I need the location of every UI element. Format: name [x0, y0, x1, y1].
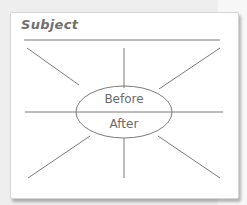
spoke-bottom-left — [28, 136, 90, 178]
spoke-bottom-right — [158, 136, 220, 178]
before-label: Before — [94, 92, 154, 106]
spoke-top-right — [159, 48, 220, 89]
subject-label: Subject — [21, 17, 78, 32]
after-label: After — [94, 117, 154, 131]
spoke-top-left — [27, 48, 79, 85]
